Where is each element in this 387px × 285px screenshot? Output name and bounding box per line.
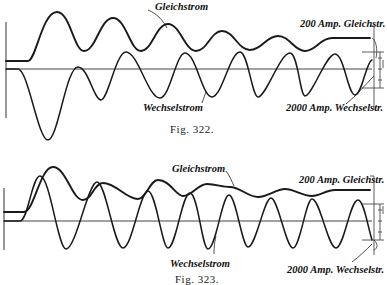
- label-gleichstrom-fig323: Gleichstrom: [172, 163, 225, 174]
- wechselstrom-curve-fig323: [4, 176, 372, 249]
- label-wechselstrom-fig322: Wechselstrom: [143, 102, 203, 113]
- label-ac-scale-fig322: 2000 Amp. Wechselstr.: [285, 102, 383, 113]
- label-dc-scale-fig323: 200 Amp. Gleichstr.: [298, 174, 384, 185]
- figure-323: Gleichstrom Wechselstrom 200 Amp. Gleich…: [4, 163, 384, 285]
- leader-ac-scale-fig323: [352, 244, 372, 262]
- leader-gleichstrom-fig323: [226, 171, 234, 186]
- label-ac-scale-fig323: 2000 Amp. Wechselstr.: [286, 264, 384, 275]
- caption-fig322: Fig. 322.: [170, 123, 214, 135]
- label-wechselstrom-fig323: Wechselstrom: [170, 258, 230, 269]
- figure-322: Gleichstrom Wechselstrom 200 Amp. Gleich…: [6, 1, 385, 140]
- label-dc-scale-fig322: 200 Amp. Gleichstr.: [299, 18, 385, 29]
- label-gleichstrom-fig322: Gleichstrom: [155, 1, 208, 12]
- caption-fig323: Fig. 323.: [175, 273, 219, 285]
- figure-canvas: Gleichstrom Wechselstrom 200 Amp. Gleich…: [0, 0, 387, 285]
